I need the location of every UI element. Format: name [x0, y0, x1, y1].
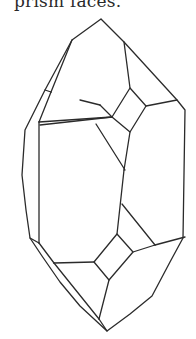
crystal-outline [22, 19, 185, 331]
crystal-drawing [0, 0, 196, 339]
lower-rhombus-face [94, 234, 133, 280]
upper-rhombus-face [112, 88, 146, 132]
